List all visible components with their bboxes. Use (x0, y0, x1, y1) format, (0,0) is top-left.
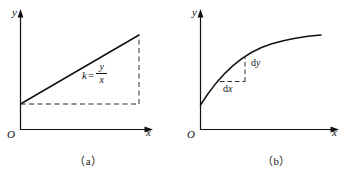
y-axis-label-a: y (12, 6, 17, 18)
dy-annotation: dy (251, 57, 260, 68)
dx-annotation: dx (223, 83, 232, 94)
panel-a-plot (0, 0, 173, 174)
panel-b-plot (173, 0, 346, 174)
slope-formula-numerator: y (97, 62, 105, 73)
origin-label-b: O (187, 128, 195, 140)
x-axis-label-a: x (146, 126, 151, 138)
linear-relation-line (21, 35, 140, 104)
slope-formula-equals: = (88, 69, 94, 81)
slope-formula-annotation: k = y x (82, 63, 107, 86)
panel-a: y x O k = y x （a） (0, 0, 173, 174)
figure-root: y x O k = y x （a） (0, 0, 346, 174)
slope-formula-lhs: k (82, 69, 87, 81)
slope-formula-fraction: y x (96, 62, 107, 85)
caption-a: （a） (2, 152, 175, 168)
caption-b: （b） (190, 152, 346, 168)
y-axis-arrow-b (198, 9, 204, 18)
slope-formula-denominator: x (97, 74, 105, 85)
dx-variable: x (228, 83, 232, 94)
concave-increasing-curve (201, 35, 322, 105)
dy-variable: y (256, 57, 260, 68)
y-axis-arrow-a (18, 9, 24, 18)
y-axis-label-b: y (192, 6, 197, 18)
panel-b: y x O dy dx （b） (173, 0, 346, 174)
x-axis-label-b: x (332, 126, 337, 138)
origin-label-a: O (7, 128, 15, 140)
